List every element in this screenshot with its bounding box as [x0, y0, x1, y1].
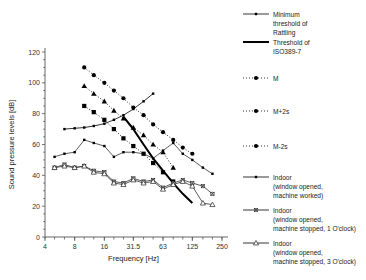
data-point [112, 127, 116, 131]
legend-label-indoor-worked: (window opened, [273, 183, 323, 191]
legend-label-indoor-stop3: Indoor [273, 240, 293, 247]
data-point [201, 184, 205, 188]
data-point [63, 128, 65, 130]
legend-marker-mp2s [254, 109, 258, 113]
legend-label-indoor-worked: machine worked) [273, 192, 323, 200]
y-tick-label: 20 [32, 203, 40, 210]
y-axis-label: Sound pressure levels [dB] [7, 100, 16, 190]
data-point [161, 170, 165, 174]
legend-label-indoor-worked: Indoor [273, 174, 293, 181]
x-tick-label: 250 [216, 243, 228, 250]
series-2 [82, 65, 194, 156]
legend: Minimumthreshold ofRattlingThreshold ofI… [243, 11, 356, 266]
data-point [82, 65, 86, 69]
x-tick-label: 4 [43, 243, 47, 250]
data-point [171, 138, 175, 142]
y-tick-label: 60 [32, 141, 40, 148]
data-point [191, 159, 193, 161]
legend-marker-m [254, 76, 258, 80]
legend-item-mm2s[interactable]: M-2s [243, 143, 288, 150]
data-point [112, 88, 116, 92]
data-point [162, 149, 164, 151]
y-tick-label: 120 [28, 49, 40, 56]
legend-label-indoor-stop3: machine stopped, 3 O'clock) [273, 258, 356, 266]
legend-marker-rattling [255, 13, 257, 15]
legend-item-indoor-stop1[interactable]: Indoor(window opened,machine stopped, 1 … [243, 207, 356, 233]
data-point [142, 100, 144, 102]
data-point [83, 126, 85, 128]
x-tick-label: 8 [73, 243, 77, 250]
y-tick-label: 0 [36, 234, 40, 241]
data-point [190, 152, 194, 156]
data-point [182, 153, 184, 155]
data-point [53, 156, 55, 158]
legend-item-iso[interactable]: Threshold ofISO389-7 [243, 39, 310, 55]
data-point [211, 173, 213, 175]
data-point [181, 145, 185, 149]
data-point [171, 165, 176, 170]
legend-label-m: M [273, 75, 279, 82]
legend-label-indoor-stop3: (window opened, [273, 249, 323, 257]
data-point [102, 81, 106, 85]
series-line [123, 117, 192, 203]
data-point [63, 153, 65, 155]
data-point [102, 99, 107, 104]
chart-figure: 020406080100120481631.563125250Frequency… [0, 0, 366, 280]
legend-marker-indoor-stop1 [254, 208, 258, 212]
data-point [103, 145, 105, 147]
data-point [141, 113, 145, 117]
legend-label-indoor-stop1: Indoor [273, 207, 293, 214]
data-point [102, 118, 106, 122]
series-3 [82, 83, 176, 170]
series-line [84, 67, 192, 153]
data-point [172, 142, 174, 144]
legend-label-rattling: Rattling [273, 29, 296, 37]
data-point [161, 130, 165, 134]
data-point [141, 133, 146, 138]
data-point [202, 166, 204, 168]
data-point [73, 127, 75, 129]
data-point [103, 122, 105, 124]
data-point [73, 151, 75, 153]
legend-marker-mm2s [254, 144, 258, 148]
legend-label-mm2s: M-2s [273, 143, 288, 150]
legend-label-iso: ISO389-7 [273, 48, 302, 55]
legend-item-indoor-stop3[interactable]: Indoor(window opened,machine stopped, 3 … [243, 240, 356, 266]
data-point [152, 157, 154, 159]
series-line [64, 94, 153, 129]
sound-pressure-level-chart: 020406080100120481631.563125250Frequency… [0, 0, 366, 280]
data-point [131, 105, 135, 109]
data-point [92, 110, 96, 114]
legend-label-indoor-stop1: (window opened, [273, 216, 323, 224]
data-point [151, 161, 155, 165]
series-line [84, 86, 173, 168]
legend-label-iso: Threshold of [273, 39, 310, 46]
legend-item-indoor-worked[interactable]: Indoor(window opened,machine worked) [243, 174, 323, 200]
data-point [151, 122, 155, 126]
data-point [121, 96, 125, 100]
data-point [113, 119, 115, 121]
data-point [211, 192, 215, 196]
data-point [142, 153, 144, 155]
legend-item-m[interactable]: M [243, 75, 279, 82]
x-tick-label: 63 [159, 243, 167, 250]
data-point [113, 156, 115, 158]
legend-item-rattling[interactable]: Minimumthreshold ofRattling [243, 11, 308, 37]
series-0 [63, 92, 154, 130]
x-tick-label: 125 [186, 243, 198, 250]
legend-label-mp2s: M+2s [273, 108, 290, 115]
data-point [131, 144, 135, 148]
data-point [82, 104, 86, 108]
y-tick-label: 80 [32, 110, 40, 117]
data-point [152, 92, 154, 94]
data-point [92, 73, 96, 77]
legend-item-mp2s[interactable]: M+2s [243, 108, 290, 115]
x-tick-label: 16 [100, 243, 108, 250]
x-axis-label: Frequency [Hz] [108, 254, 159, 263]
data-point [132, 151, 134, 153]
data-point [111, 108, 116, 113]
data-point [200, 201, 205, 206]
data-point [93, 125, 95, 127]
legend-label-indoor-stop1: machine stopped, 1 O'clock) [273, 225, 356, 233]
y-tick-label: 40 [32, 172, 40, 179]
